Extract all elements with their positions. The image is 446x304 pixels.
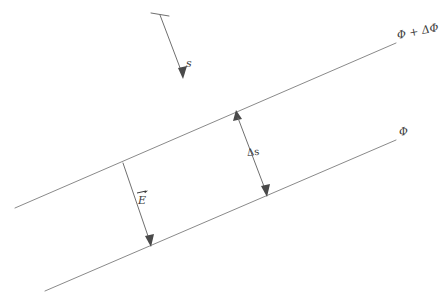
displacement-label: s (186, 58, 192, 69)
field-vector-label-wrap: E (138, 192, 146, 206)
upper-equipotential-line (15, 43, 396, 208)
lower-equipotential-label: Φ (398, 125, 409, 138)
vector-notation: E (138, 192, 146, 206)
physics-diagram: Φ + ΔΦ Φ s Δs E (0, 0, 446, 304)
separation-label: Δs (246, 147, 259, 158)
diagram-canvas (0, 0, 446, 304)
field-vector-label: E (138, 194, 146, 207)
lower-equipotential-line (45, 140, 396, 291)
s-arrow-shaft (160, 15, 182, 73)
